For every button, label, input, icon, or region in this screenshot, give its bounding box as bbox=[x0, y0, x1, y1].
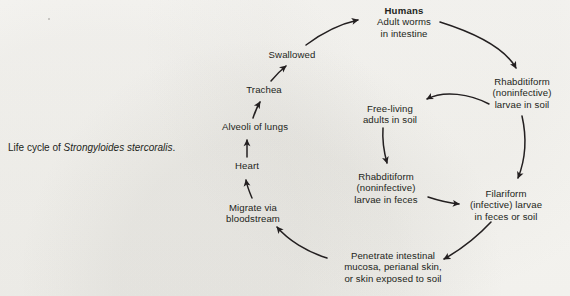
caption-suffix: . bbox=[173, 142, 176, 153]
node-penetrate-line1: Penetrate intestinal bbox=[344, 250, 442, 261]
caption-prefix: Life cycle of bbox=[8, 142, 64, 153]
edge-filariform-to-penetrate bbox=[444, 222, 491, 259]
node-filariform-larvae: Filariform (infective) larvae in feces o… bbox=[470, 188, 542, 222]
node-rhabditiform-larvae-in-feces: Rhabditiform (noninfective) larvae in fe… bbox=[354, 171, 417, 205]
node-rhabditiform-soil-line2: (noninfective) bbox=[493, 87, 552, 98]
node-free-living-line2: adults in soil bbox=[363, 114, 417, 125]
node-filariform-line1: Filariform bbox=[470, 188, 542, 199]
node-alveoli-of-lungs: Alveoli of lungs bbox=[222, 121, 288, 132]
node-heart-line1: Heart bbox=[235, 160, 259, 171]
node-rhabditiform-soil-line1: Rhabditiform bbox=[493, 76, 552, 87]
edge-penetrate-to-migrate bbox=[277, 227, 327, 258]
edge-humans-to-rhabditiform-soil bbox=[440, 22, 516, 68]
node-filariform-line2: (infective) larvae bbox=[470, 199, 542, 210]
life-cycle-figure: Humans Adult worms in intestine Rhabditi… bbox=[0, 0, 570, 296]
node-penetrate-intestinal-mucosa: Penetrate intestinal mucosa, perianal sk… bbox=[344, 250, 442, 284]
figure-caption: Life cycle of Strongyloides stercoralis. bbox=[8, 142, 175, 153]
edge-trachea-to-swallowed bbox=[271, 66, 286, 81]
node-filariform-line3: in feces or soil bbox=[470, 211, 542, 222]
node-rhabditiform-feces-line1: Rhabditiform bbox=[354, 171, 417, 182]
node-migrate-line2: bloodstream bbox=[226, 213, 280, 224]
edge-rhabditiform-soil-to-free-living bbox=[427, 94, 489, 104]
node-trachea-line1: Trachea bbox=[246, 84, 282, 95]
edge-free-living-to-rhabditiform-feces bbox=[383, 128, 387, 163]
node-free-living-adults-in-soil: Free-living adults in soil bbox=[363, 103, 417, 126]
node-migrate-line1: Migrate via bbox=[226, 202, 280, 213]
node-humans: Humans Adult worms in intestine bbox=[377, 5, 431, 39]
node-rhabditiform-feces-line3: larvae in feces bbox=[354, 194, 417, 205]
caption-species-name: Strongyloides stercoralis bbox=[64, 142, 173, 153]
node-humans-heading: Humans bbox=[377, 5, 431, 16]
edge-swallowed-to-humans bbox=[306, 20, 358, 45]
node-free-living-line1: Free-living bbox=[363, 103, 417, 114]
node-penetrate-line2: mucosa, perianal skin, bbox=[344, 261, 442, 272]
node-penetrate-line3: or skin exposed to soil bbox=[344, 273, 442, 284]
node-alveoli-line1: Alveoli of lungs bbox=[222, 121, 288, 132]
node-heart: Heart bbox=[235, 160, 259, 171]
node-humans-line1: Adult worms bbox=[377, 16, 431, 27]
node-rhabditiform-feces-line2: (noninfective) bbox=[354, 182, 417, 193]
edge-migrate-to-heart bbox=[246, 180, 252, 198]
node-rhabditiform-larvae-in-soil: Rhabditiform (noninfective) larvae in so… bbox=[493, 76, 552, 110]
node-swallowed: Swallowed bbox=[269, 49, 316, 60]
edge-alveoli-to-trachea bbox=[253, 102, 260, 118]
edge-rhabditiform-soil-to-filariform bbox=[518, 116, 525, 178]
node-humans-line2: in intestine bbox=[377, 28, 431, 39]
node-swallowed-line1: Swallowed bbox=[269, 49, 316, 60]
scan-artifact-speck bbox=[48, 18, 50, 20]
node-trachea: Trachea bbox=[246, 84, 282, 95]
node-rhabditiform-soil-line3: larvae in soil bbox=[493, 99, 552, 110]
edge-rhabditiform-feces-to-filariform bbox=[428, 197, 459, 204]
node-migrate-via-bloodstream: Migrate via bloodstream bbox=[226, 202, 280, 225]
